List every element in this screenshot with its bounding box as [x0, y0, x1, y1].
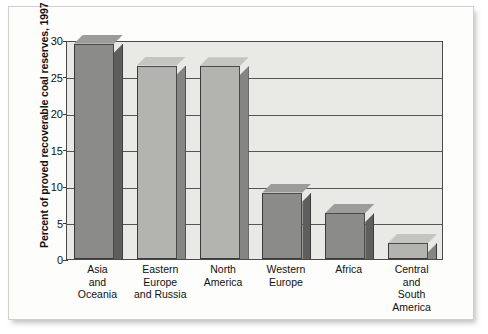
bar-side-face: [302, 193, 311, 259]
bar: [137, 57, 186, 259]
x-axis-category-label-line: Central: [380, 263, 443, 276]
bar: [200, 57, 249, 259]
x-axis-category-label: Africa: [317, 263, 380, 276]
gridline: [67, 151, 442, 152]
y-axis-tick-marks: [35, 41, 69, 260]
bar-front-face: [325, 213, 365, 259]
chart-figure-card: Percent of proved recoverable coal reser…: [8, 6, 474, 320]
bar-front-face: [200, 66, 240, 259]
x-axis-category-label-line: and Russia: [129, 288, 192, 301]
gridline: [67, 78, 442, 79]
x-axis-category-label-line: Western: [255, 263, 318, 276]
bar-top-face: [388, 234, 437, 243]
bar: [325, 204, 374, 259]
bar-side-face: [240, 66, 249, 259]
bar-top-face: [325, 204, 374, 213]
x-axis-category-label-line: America: [192, 276, 255, 289]
bar-top-face: [74, 35, 123, 44]
x-axis-category-label-line: Oceania: [66, 288, 129, 301]
x-axis-category-label: CentralandSouthAmerica: [380, 263, 443, 313]
bar-front-face: [388, 243, 428, 259]
bar-side-face: [114, 44, 123, 259]
x-axis-category-label-line: America: [380, 301, 443, 314]
bar-front-face: [137, 66, 177, 259]
x-axis-category-label: NorthAmerica: [192, 263, 255, 288]
bar-front-face: [74, 44, 114, 259]
bar-top-face: [262, 184, 311, 193]
x-axis-category-label-line: Europe: [129, 276, 192, 289]
x-axis-category-label-line: Asia: [66, 263, 129, 276]
x-axis-category-label-line: North: [192, 263, 255, 276]
x-axis-category-label: AsiaandOceania: [66, 263, 129, 301]
x-axis-category-label-line: and: [66, 276, 129, 289]
bar-top-face: [137, 57, 186, 66]
x-axis-category-label-line: South: [380, 288, 443, 301]
x-axis-category-labels: AsiaandOceaniaEasternEuropeand RussiaNor…: [66, 263, 443, 319]
plot-area: [66, 41, 443, 260]
x-axis-category-label: EasternEuropeand Russia: [129, 263, 192, 301]
bar-front-face: [262, 193, 302, 259]
x-axis-category-label-line: Europe: [255, 276, 318, 289]
gridline: [67, 115, 442, 116]
bar-chart: Percent of proved recoverable coal reser…: [9, 7, 475, 321]
x-axis-category-label-line: Eastern: [129, 263, 192, 276]
bar-side-face: [177, 66, 186, 259]
gridline: [67, 224, 442, 225]
bar-side-face: [428, 243, 437, 259]
gridline: [67, 188, 442, 189]
bar: [74, 35, 123, 259]
bar: [388, 234, 437, 259]
x-axis-category-label: WesternEurope: [255, 263, 318, 288]
bar-side-face: [365, 213, 374, 259]
x-axis-category-label-line: and: [380, 276, 443, 289]
x-axis-category-label-line: Africa: [317, 263, 380, 276]
bar-top-face: [200, 57, 249, 66]
bar: [262, 184, 311, 259]
